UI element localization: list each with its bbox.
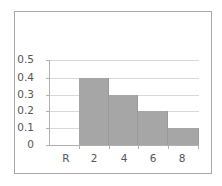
x-tick [109, 145, 110, 149]
x-label: R [51, 152, 81, 164]
x-label: 6 [138, 152, 168, 164]
bar-8 [168, 128, 199, 145]
y-label: 0.5 [4, 53, 34, 65]
gridline-0.5 [49, 60, 199, 61]
y-label: 0 [4, 138, 34, 150]
x-label: 4 [109, 152, 139, 164]
y-label: 0.4 [4, 71, 34, 83]
y-label: 0.2 [4, 104, 34, 116]
x-tick [138, 145, 139, 149]
y-label: 0.3 [4, 88, 34, 100]
x-tick [79, 145, 80, 149]
bar-2 [79, 78, 109, 145]
gridline-0.4 [49, 78, 199, 79]
bar-4 [109, 95, 138, 145]
bar-6 [138, 111, 168, 145]
y-axis [49, 60, 50, 146]
bar-chart: 0.5 0.4 0.3 0.2 0.1 0 R 2 4 6 8 [0, 0, 222, 186]
x-label: 2 [79, 152, 109, 164]
y-label: 0.1 [4, 121, 34, 133]
x-tick [198, 145, 199, 149]
x-label: 8 [167, 152, 197, 164]
x-tick [168, 145, 169, 149]
x-axis [46, 145, 199, 146]
